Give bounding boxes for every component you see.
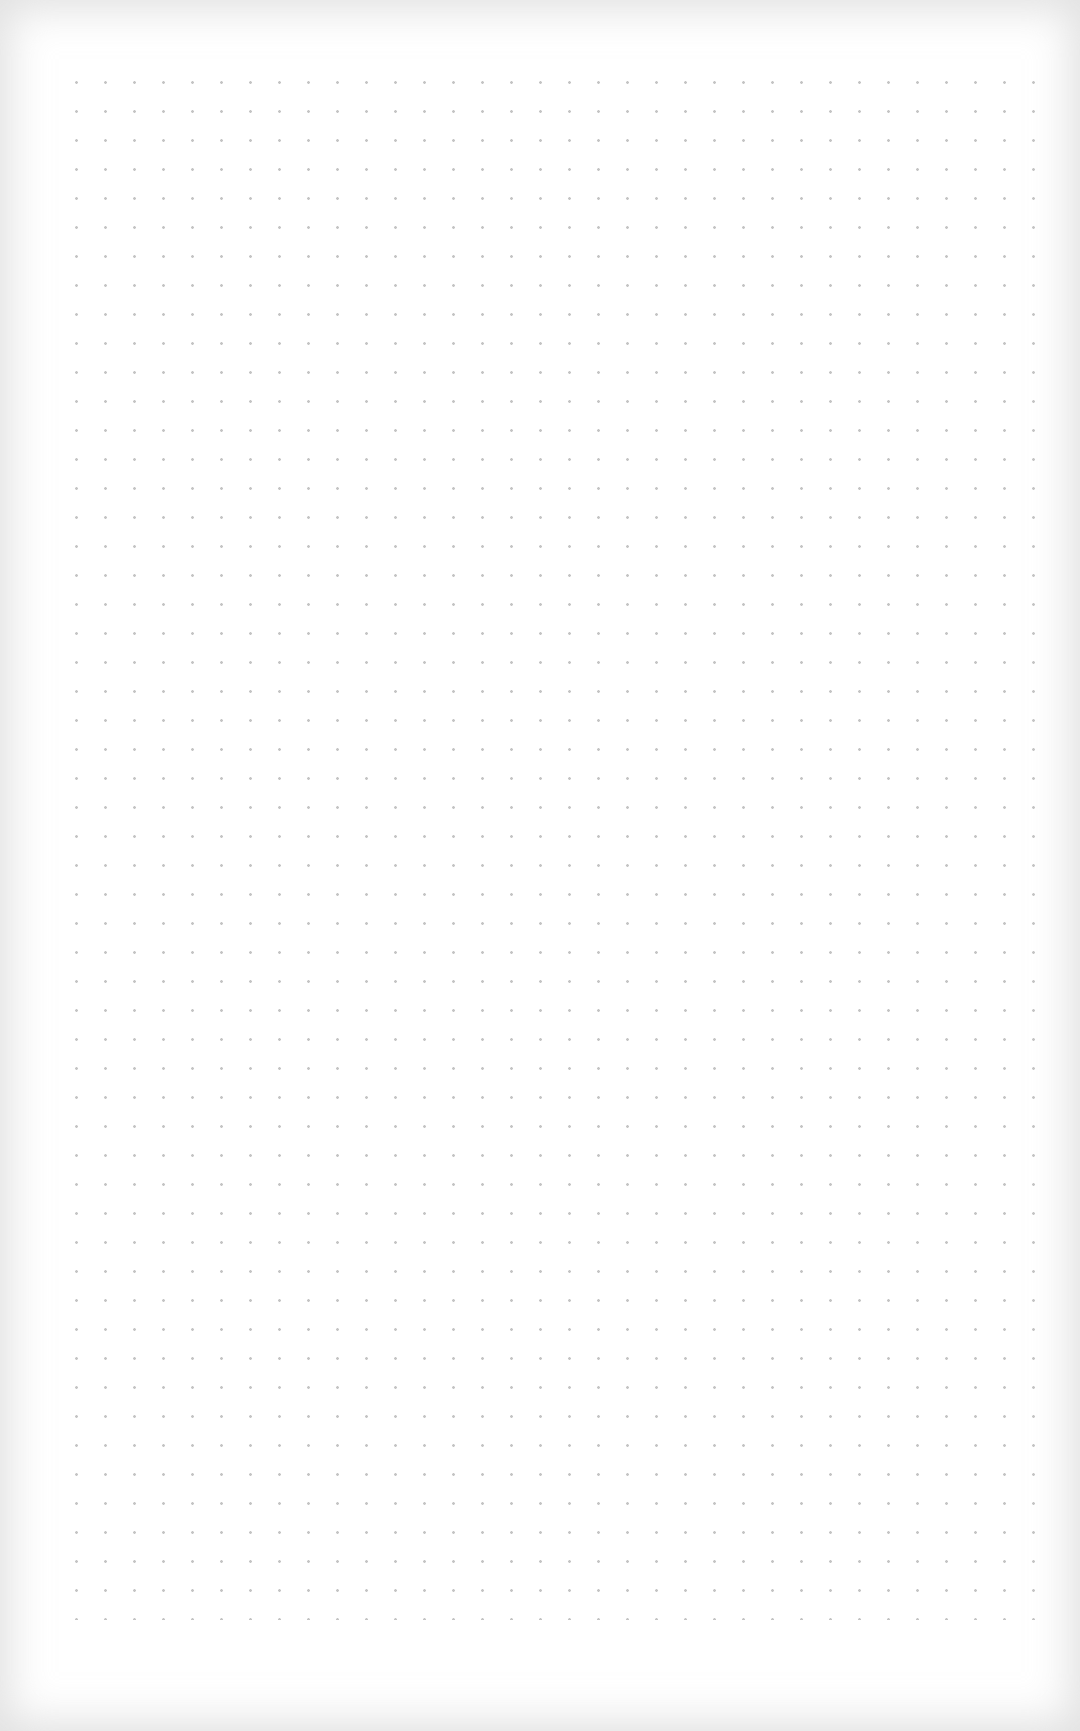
paper-sheet: Blank dot grid notebook page <box>0 0 1080 1731</box>
dot-grid <box>62 68 1058 1620</box>
